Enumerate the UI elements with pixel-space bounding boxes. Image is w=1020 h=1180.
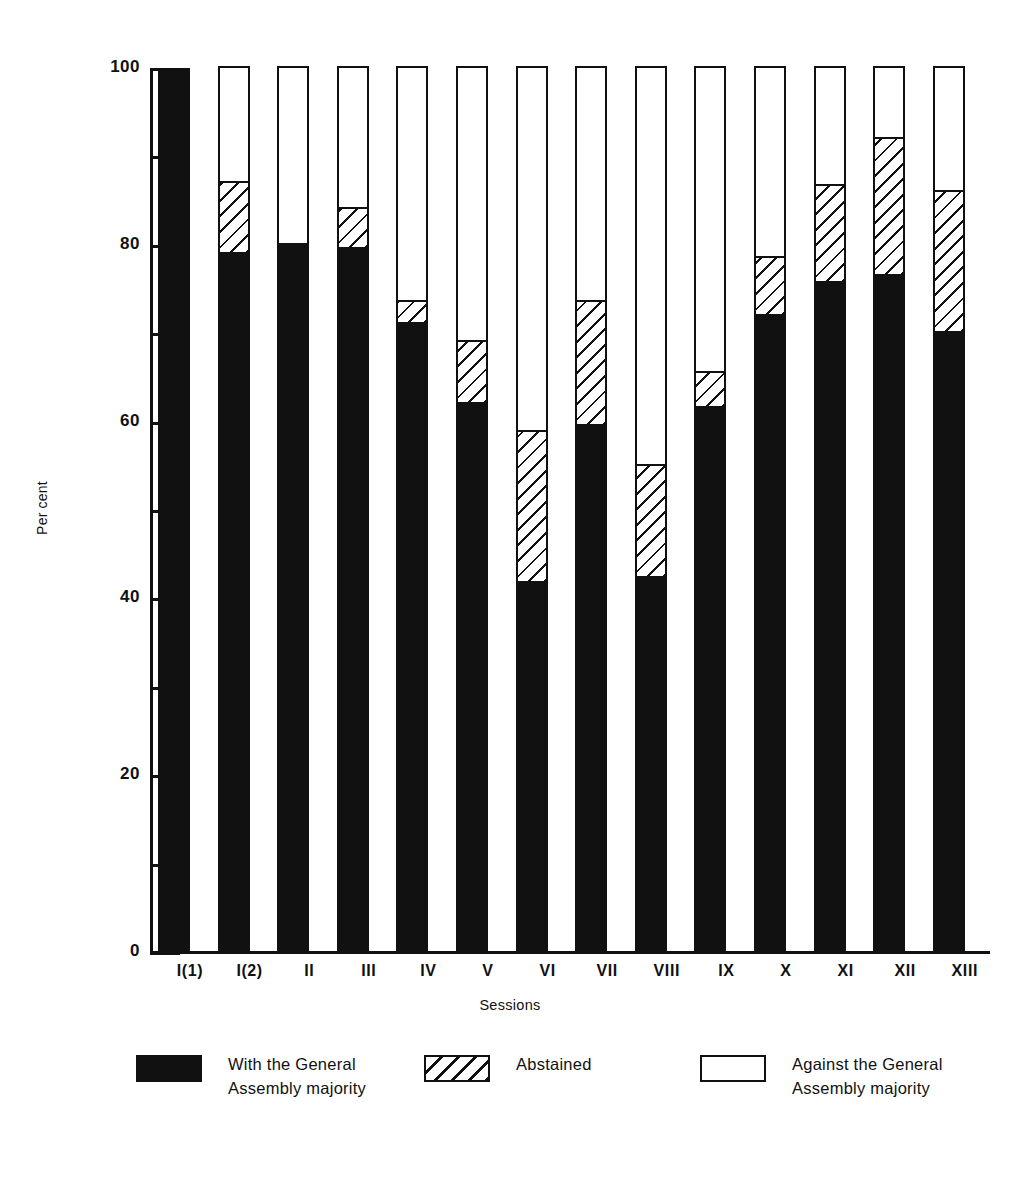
segment-with: [456, 404, 488, 952]
segment-against: [218, 66, 250, 183]
bar-I1[interactable]: [158, 68, 190, 952]
y-tick-label: 60: [78, 411, 140, 431]
bar-VII[interactable]: [575, 68, 607, 952]
segment-against: [754, 66, 786, 258]
segment-with: [814, 283, 846, 952]
bar-I2[interactable]: [218, 68, 250, 952]
bar-IX[interactable]: [694, 68, 726, 952]
bar-XI[interactable]: [814, 68, 846, 952]
segment-with: [933, 333, 965, 952]
legend-item-abstained[interactable]: Abstained: [424, 1052, 592, 1082]
segment-abstained: [814, 184, 846, 283]
segment-abstained: [516, 430, 548, 582]
chart-legend: With the General Assembly majorityAbstai…: [0, 1052, 1020, 1142]
legend-label: With the General Assembly majority: [228, 1052, 366, 1101]
segment-abstained: [635, 464, 667, 578]
legend-item-with[interactable]: With the General Assembly majority: [136, 1052, 366, 1101]
segment-against: [516, 66, 548, 432]
bar-IV[interactable]: [396, 68, 428, 952]
segment-with: [218, 254, 250, 952]
x-axis-label: XIII: [920, 962, 1010, 980]
y-tick-label: 80: [78, 234, 140, 254]
legend-label: Abstained: [516, 1052, 592, 1076]
segment-with: [694, 408, 726, 952]
bar-VIII[interactable]: [635, 68, 667, 952]
segment-abstained: [754, 256, 786, 315]
bar-II[interactable]: [277, 68, 309, 952]
segment-abstained: [218, 181, 250, 254]
stacked-bar-chart: Per cent 020406080100 I(1)I(2)IIIIIIVVVI…: [0, 0, 1020, 1180]
segment-abstained: [396, 300, 428, 324]
segment-against: [337, 66, 369, 209]
plot-area: [150, 68, 990, 952]
segment-abstained: [873, 137, 905, 276]
segment-against: [635, 66, 667, 466]
segment-against: [694, 66, 726, 373]
y-tick-label: 0: [78, 941, 140, 961]
segment-against: [873, 66, 905, 139]
legend-label: Against the General Assembly majority: [792, 1052, 943, 1101]
segment-with: [158, 68, 190, 952]
segment-with: [396, 324, 428, 952]
bar-XII[interactable]: [873, 68, 905, 952]
segment-with: [337, 249, 369, 952]
bar-XIII[interactable]: [933, 68, 965, 952]
bar-X[interactable]: [754, 68, 786, 952]
y-tick-label: 20: [78, 764, 140, 784]
y-tick-major: [150, 952, 180, 955]
segment-against: [575, 66, 607, 302]
segment-abstained: [933, 190, 965, 333]
x-axis-title: Sessions: [0, 997, 1020, 1013]
segment-abstained: [575, 300, 607, 426]
segment-against: [814, 66, 846, 186]
legend-item-against[interactable]: Against the General Assembly majority: [700, 1052, 943, 1101]
segment-abstained: [337, 207, 369, 249]
outline-white-swatch: [700, 1055, 766, 1082]
segment-against: [396, 66, 428, 302]
segment-with: [277, 245, 309, 952]
segment-against: [933, 66, 965, 192]
bar-V[interactable]: [456, 68, 488, 952]
segment-against: [456, 66, 488, 342]
solid-black-swatch: [136, 1055, 202, 1082]
segment-with: [873, 276, 905, 952]
segment-against: [277, 66, 309, 245]
segment-abstained: [456, 340, 488, 404]
bar-VI[interactable]: [516, 68, 548, 952]
bar-III[interactable]: [337, 68, 369, 952]
y-tick-label: 100: [78, 57, 140, 77]
segment-with: [635, 578, 667, 952]
segment-with: [754, 316, 786, 952]
hatched-swatch: [424, 1055, 490, 1082]
segment-with: [516, 583, 548, 953]
segment-with: [575, 426, 607, 952]
segment-abstained: [694, 371, 726, 408]
y-axis-title: Per cent: [34, 448, 50, 568]
y-tick-label: 40: [78, 587, 140, 607]
